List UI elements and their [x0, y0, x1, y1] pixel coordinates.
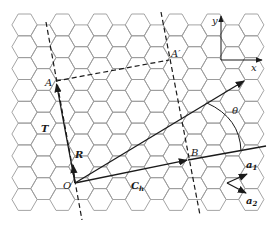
label-theta: θ [232, 105, 238, 116]
label-B: B [190, 147, 198, 158]
hexagon-cell [201, 167, 226, 189]
hexagon-cell [201, 80, 226, 102]
hexagon-cell [182, 69, 207, 91]
label-a1: a1 [246, 159, 257, 172]
hexagon-cell [88, 36, 113, 58]
hexagon-cell [50, 36, 75, 58]
hexagon-cell [239, 14, 264, 36]
hexagon-cell [144, 134, 169, 156]
hexagon-cell [50, 123, 75, 145]
hexagon-cell [201, 123, 226, 145]
hexagon-cell [125, 58, 150, 80]
hexagon-cell [88, 189, 113, 211]
hexagon-cell [106, 178, 131, 200]
hexagon-cell [239, 36, 264, 58]
hexagon-cell [144, 178, 169, 200]
hexagon-cell [69, 178, 94, 200]
hexagon-cell [125, 14, 150, 36]
hexagon-cell [239, 167, 264, 189]
hexagon-cell [106, 90, 131, 112]
hexagon-cell [69, 90, 94, 112]
hexagon-cell [50, 189, 75, 211]
hexagon-cell [163, 80, 188, 102]
hexagon-cell [50, 80, 75, 102]
hexagon-cell [163, 189, 188, 211]
hexagon-cell [106, 69, 131, 91]
hexagon-cell [12, 80, 37, 102]
vector-T [57, 84, 76, 183]
hexagon-cell [125, 123, 150, 145]
hexagon-cell [69, 112, 94, 134]
hexagon-cell [182, 25, 207, 47]
hexagon-cell [50, 14, 75, 36]
label-O: O [63, 180, 71, 191]
hexagon-cell [144, 112, 169, 134]
hexagon-cell [220, 156, 245, 178]
hexagon-cell [31, 134, 56, 156]
hexagon-cell [106, 25, 131, 47]
hexagon-cell [201, 189, 226, 211]
hexagon-cell [201, 58, 226, 80]
hexagon-cell [31, 156, 56, 178]
hexagon-cell [163, 101, 188, 123]
label-y-axis: y [211, 15, 218, 26]
hexagon-cell [182, 90, 207, 112]
label-a2: a2 [246, 195, 257, 208]
chiral-line-extension [188, 146, 266, 160]
hexagon-cell [69, 47, 94, 69]
hexagon-cell [88, 58, 113, 80]
hexagon-cell [88, 101, 113, 123]
hexagon-cell [106, 47, 131, 69]
hexagon-cell [144, 90, 169, 112]
label-x-axis: x [251, 62, 257, 73]
hexagon-cell [201, 36, 226, 58]
hexagon-cell [163, 167, 188, 189]
hexagon-cell [88, 123, 113, 145]
hexagon-cell [88, 80, 113, 102]
hexagon-cell [12, 145, 37, 167]
label-A-prime: A′ [170, 48, 181, 59]
hexagon-cell [125, 145, 150, 167]
label-R: R [74, 149, 83, 160]
hexagon-cell [163, 145, 188, 167]
dashed-line-A-to-A-prime [56, 60, 169, 81]
vector-a1 [227, 174, 247, 183]
hexagon-cell [182, 47, 207, 69]
hexagon-cell [12, 123, 37, 145]
label-A: A [44, 77, 52, 88]
hexagon-cell [106, 112, 131, 134]
hexagon-cell [125, 80, 150, 102]
hexagon-cell [144, 47, 169, 69]
hexagon-cell [144, 69, 169, 91]
hexagon-cell [239, 80, 264, 102]
hexagon-cell [31, 178, 56, 200]
hexagon-cell [163, 14, 188, 36]
hexagon-cell [31, 90, 56, 112]
hexagon-cell [125, 101, 150, 123]
hexagon-cell [220, 69, 245, 91]
hexagon-cell [106, 134, 131, 156]
label-Ch: Ch [131, 180, 144, 193]
hexagon-cell [12, 36, 37, 58]
hexagon-cell [125, 36, 150, 58]
hexagon-cell [12, 189, 37, 211]
hexagon-cell [31, 25, 56, 47]
hexagon-cell [239, 101, 264, 123]
hexagon-cell [12, 14, 37, 36]
hexagon-cell [125, 189, 150, 211]
hexagon-cell [220, 47, 245, 69]
hexagon-cell [12, 58, 37, 80]
chiral-vector-diagram: A A′ O B T R Ch θ x y a1 a2 [0, 0, 277, 229]
hexagon-cell [69, 25, 94, 47]
armchair-direction-line [75, 81, 244, 183]
hexagon-cell [88, 14, 113, 36]
hexagon-cell [12, 167, 37, 189]
hexagon-cell [220, 25, 245, 47]
hexagon-cell [12, 101, 37, 123]
label-T: T [41, 123, 50, 134]
hexagon-cell [69, 69, 94, 91]
hexagon-cell [88, 145, 113, 167]
hexagon-cell [239, 123, 264, 145]
hexagon-cell [50, 58, 75, 80]
